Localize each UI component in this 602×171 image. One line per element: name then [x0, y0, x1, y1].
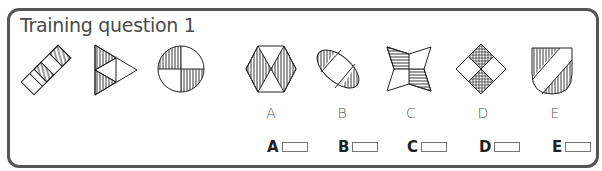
question-title: Training question 1 — [20, 14, 196, 36]
answer-e[interactable]: E — [552, 138, 591, 156]
answer-checkbox-e[interactable] — [565, 142, 591, 152]
answer-b[interactable]: B — [338, 138, 378, 156]
answer-checkbox-a[interactable] — [282, 142, 308, 152]
rotated-rectangle-diagonal-stripes-icon — [18, 42, 74, 98]
circle-quarters-vertical-stripes-icon — [156, 44, 206, 94]
hexagon-hourglass-stripes-icon — [244, 44, 298, 94]
answer-label-e: E — [552, 138, 562, 156]
shield-diagonal-stripes-icon — [530, 46, 574, 96]
option-label-a: A — [261, 105, 281, 121]
option-label-e: E — [545, 105, 565, 121]
answer-checkbox-c[interactable] — [421, 142, 447, 152]
answer-label-b: B — [338, 138, 349, 156]
ellipse-diagonal-stripes-icon — [311, 44, 365, 94]
option-label-c: C — [401, 105, 421, 121]
option-label-d: D — [473, 105, 493, 121]
triangle-vertical-stripes-icon — [93, 44, 139, 96]
answer-checkbox-b[interactable] — [352, 142, 378, 152]
answer-checkbox-d[interactable] — [494, 142, 520, 152]
answer-d[interactable]: D — [479, 138, 520, 156]
star-bowtie-horizontal-stripes-icon — [384, 44, 434, 94]
answer-c[interactable]: C — [407, 138, 447, 156]
diamond-crosshatch-icon — [454, 42, 508, 96]
answer-a[interactable]: A — [267, 138, 308, 156]
answer-label-d: D — [479, 138, 491, 156]
option-label-b: B — [332, 105, 352, 121]
answer-label-a: A — [267, 138, 279, 156]
answer-label-c: C — [407, 138, 418, 156]
